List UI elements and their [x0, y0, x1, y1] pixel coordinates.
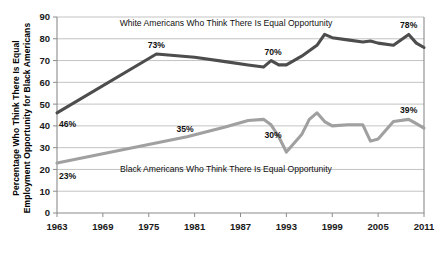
point-label-s0-78: 78%	[400, 20, 418, 30]
point-labels-group: 46%73%70%78%23%35%30%39%	[59, 20, 418, 180]
point-label-s0-73: 73%	[148, 40, 166, 50]
x-tick-label-1963: 1963	[46, 221, 67, 232]
y-tick-label-0: 0	[45, 207, 50, 218]
y-tick-label-80: 80	[39, 33, 50, 44]
y-tick-label-70: 70	[39, 55, 50, 66]
point-label-s1-23: 23%	[59, 171, 77, 181]
y-tick-label-90: 90	[39, 11, 50, 22]
y-tick-labels-group: 0102030405060708090	[39, 11, 50, 218]
x-tick-label-1975: 1975	[138, 221, 160, 232]
y-tick-label-40: 40	[39, 120, 50, 131]
point-label-s0-46: 46%	[59, 119, 77, 129]
x-tickmarks-group	[57, 213, 424, 217]
y-tick-label-50: 50	[39, 99, 50, 110]
x-tick-label-2005: 2005	[368, 221, 390, 232]
point-label-s1-30: 30%	[264, 130, 282, 140]
axes-group	[57, 17, 424, 213]
series-lines-group	[57, 34, 424, 162]
y-tick-label-30: 30	[39, 142, 50, 153]
point-label-s1-35: 35%	[176, 124, 194, 134]
plot-area-border	[57, 17, 424, 213]
x-tick-labels-group: 196319691975198119871993199920052011	[46, 221, 435, 232]
series-inline-label-0: White Americans Who Think There Is Equal…	[120, 18, 333, 28]
x-tick-label-1969: 1969	[92, 221, 113, 232]
line-chart-plot: 0102030405060708090 19631969197519811987…	[0, 0, 442, 257]
point-label-s1-39: 39%	[400, 105, 418, 115]
x-tick-label-1993: 1993	[276, 221, 297, 232]
series-line-0	[57, 34, 424, 112]
y-tick-label-60: 60	[39, 77, 50, 88]
series-line-1	[57, 113, 424, 163]
y-tick-label-20: 20	[39, 164, 50, 175]
point-label-s0-70: 70%	[264, 47, 282, 57]
x-tick-label-1999: 1999	[322, 221, 343, 232]
x-tick-label-2011: 2011	[414, 221, 435, 232]
y-tick-label-10: 10	[39, 186, 50, 197]
chart-container: Percentage Who Think There Is Equal Empl…	[0, 0, 442, 257]
x-tick-label-1981: 1981	[184, 221, 206, 232]
y-tickmarks-group	[53, 17, 57, 213]
series-inline-label-1: Black Americans Who Think There Is Equal…	[120, 164, 332, 174]
x-tick-label-1987: 1987	[230, 221, 251, 232]
